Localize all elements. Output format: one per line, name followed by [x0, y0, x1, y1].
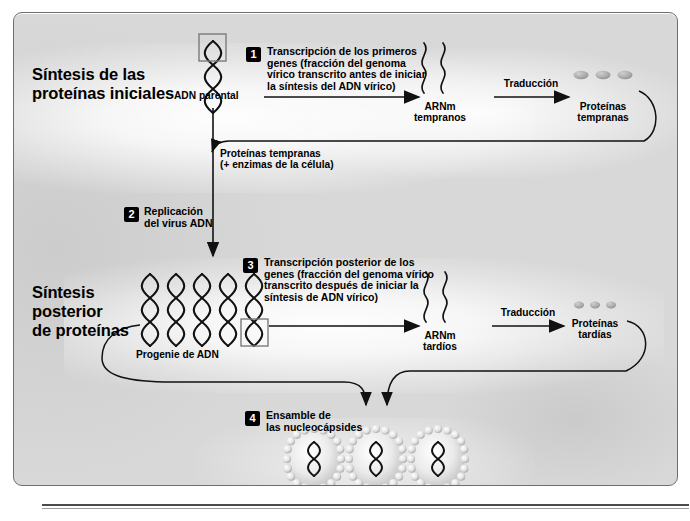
- step-text-1: Transcripción de los primeros genes (fra…: [267, 46, 467, 92]
- step-badge-4: 4: [245, 411, 260, 426]
- step-badge-1: 1: [246, 47, 261, 62]
- label-translation-late: Traducción: [492, 307, 564, 318]
- nucleocapsid: [345, 425, 407, 486]
- footer-rule: [42, 504, 689, 506]
- label-early-mrna: ARNm tempranos: [407, 101, 473, 124]
- section-title-late-line3: de proteínas: [32, 321, 129, 340]
- diagram-panel: Síntesis de las proteínas iniciales Sínt…: [13, 12, 678, 486]
- label-late-mrna: ARNm tardíos: [407, 330, 473, 353]
- label-feedback-early-proteins: Proteínas tempranas (+ enzimas de la cél…: [220, 148, 334, 171]
- late-protein-dots: [574, 302, 616, 309]
- section-title-late-line1: Síntesis: [32, 283, 129, 302]
- section-title-late: Síntesis posterior de proteínas: [32, 283, 129, 340]
- progeny-dna-icons: [142, 274, 268, 346]
- section-title-late-line2: posterior: [32, 302, 129, 321]
- label-translation-early: Traducción: [495, 78, 567, 89]
- step-badge-3: 3: [243, 258, 258, 273]
- nucleocapsid: [283, 425, 345, 486]
- early-protein-dots: [574, 71, 633, 79]
- label-progeny-dna: Progenie de ADN: [136, 349, 219, 360]
- nucleocapsid: [407, 425, 469, 486]
- section-title-early-line2: proteínas iniciales: [32, 84, 174, 103]
- diagram-canvas: Síntesis de las proteínas iniciales Sínt…: [0, 0, 690, 521]
- label-parental-dna: ADN parental: [174, 90, 239, 101]
- step-text-4: Ensamble de las nucleocápsides: [266, 410, 406, 433]
- step-badge-2: 2: [124, 207, 139, 222]
- nucleocapsid-icons: [283, 425, 469, 486]
- label-late-proteins: Proteínas tardías: [559, 318, 631, 341]
- step-text-2: Replicación del virus ADN: [144, 206, 234, 229]
- label-early-proteins: Proteínas tempranas: [567, 101, 639, 124]
- section-title-early: Síntesis de las proteínas iniciales: [32, 65, 174, 103]
- section-title-early-line1: Síntesis de las: [32, 65, 174, 84]
- step-text-3: Transcripción posterior de los genes (fr…: [264, 257, 469, 303]
- footer-rule-secondary: [42, 508, 689, 509]
